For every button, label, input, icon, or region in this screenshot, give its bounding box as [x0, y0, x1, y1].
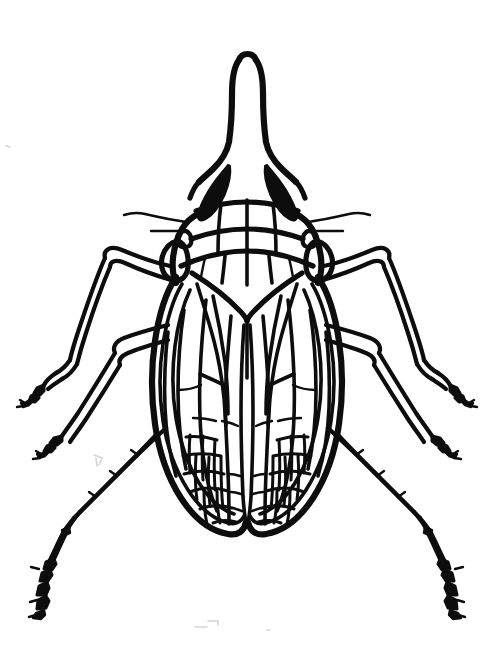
forewing-right	[248, 277, 342, 534]
foreleg-left	[17, 248, 171, 407]
insect-line-drawing	[0, 0, 487, 652]
head-and-snout	[190, 54, 305, 198]
forewing-left	[152, 277, 246, 534]
legs-right	[323, 248, 477, 619]
hindleg-right	[328, 428, 465, 619]
drawing-canvas	[0, 0, 487, 652]
midleg-right	[326, 325, 461, 459]
foreleg-right	[323, 248, 477, 407]
paper-smudges	[6, 146, 270, 630]
legs-left	[17, 248, 171, 619]
midleg-left	[33, 325, 168, 459]
